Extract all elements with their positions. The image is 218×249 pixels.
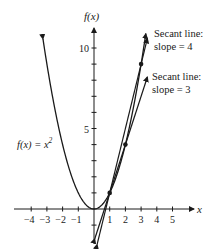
y-axis-label: f(x) [84, 10, 100, 23]
function-label-text: f(x) = x [17, 139, 49, 151]
parabola-curve-right [109, 34, 146, 195]
x-tick-label: 3 [139, 214, 144, 225]
x-tick-label: −1 [71, 214, 82, 225]
x-tick-label: 4 [154, 214, 159, 225]
y-tick-label-5: 5 [84, 124, 89, 135]
function-label-exponent: 2 [49, 136, 53, 145]
x-tick-label: 1 [107, 214, 112, 225]
x-tick-label: −3 [40, 214, 51, 225]
parabola-curve [43, 39, 109, 209]
x-tick-label: −4 [24, 214, 35, 225]
data-point [139, 62, 144, 67]
x-tick-label: 2 [123, 214, 128, 225]
secant-3-label-line1: Secant line: [152, 71, 201, 82]
function-label: f(x) = x2 [17, 136, 53, 151]
secant-lines-chart: −4−3−2−112345 f(x) x 10 5 f(x) = x2 Seca… [0, 0, 218, 249]
x-axis-label: x [196, 203, 202, 215]
data-point [107, 191, 112, 196]
secant-4-label-line2: slope = 4 [154, 41, 193, 52]
secant-4-label-line1: Secant line: [154, 28, 203, 39]
x-tick-label: 5 [170, 214, 175, 225]
secant-3-label-line2: slope = 3 [152, 84, 191, 95]
y-tick-label-10: 10 [79, 43, 89, 54]
data-point [123, 142, 128, 147]
x-tick-label: −2 [55, 214, 66, 225]
